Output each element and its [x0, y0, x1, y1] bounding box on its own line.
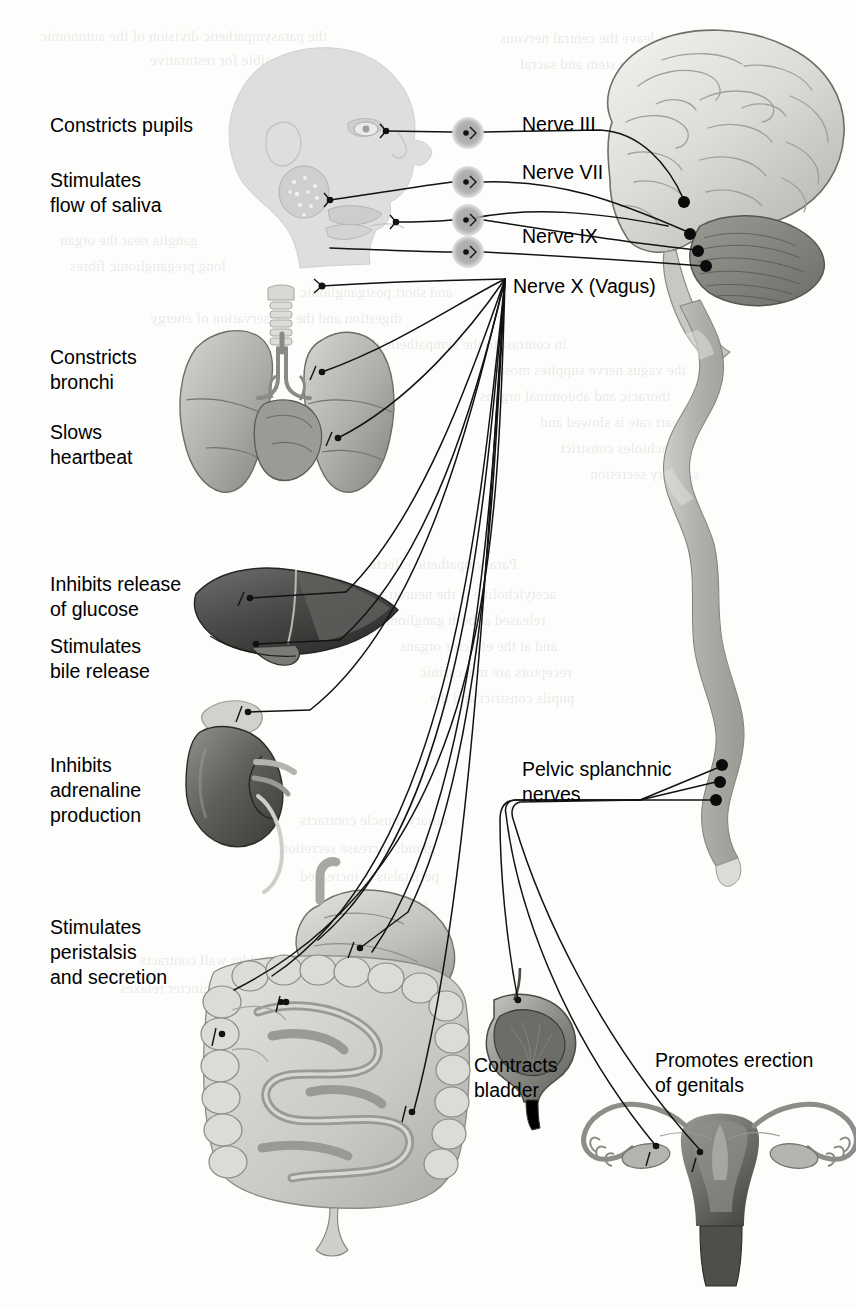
- diagram-page: the parasympathetic division of the auto…: [0, 0, 856, 1309]
- head-profile: [229, 48, 431, 268]
- label-nerve-iii: Nerve III: [522, 112, 596, 137]
- label-inhibits-adrenaline: Inhibits adrenaline production: [50, 753, 141, 828]
- label-constricts-bronchi: Constricts bronchi: [50, 345, 137, 395]
- brain: [608, 30, 844, 364]
- label-slows-heartbeat: Slows heartbeat: [50, 420, 132, 470]
- label-promotes-erection: Promotes erection of genitals: [655, 1048, 813, 1098]
- label-nerve-vii: Nerve VII: [522, 160, 603, 185]
- kidney-and-adrenal-gland: [186, 701, 294, 892]
- label-inhibits-glucose: Inhibits release of glucose: [50, 572, 181, 622]
- label-contracts-bladder: Contracts bladder: [474, 1053, 557, 1103]
- label-constricts-pupils: Constricts pupils: [50, 113, 193, 138]
- spinal-cord: [663, 300, 744, 886]
- label-stimulates-bile: Stimulates bile release: [50, 634, 150, 684]
- label-pelvic-splanchnic: Pelvic splanchnic nerves: [522, 757, 672, 807]
- lungs-and-heart: [180, 331, 394, 493]
- uterus-and-ovaries: [584, 1104, 856, 1286]
- bladder: [486, 968, 575, 1130]
- label-nerve-ix: Nerve IX: [522, 224, 598, 249]
- label-stimulates-peristalsis: Stimulates peristalsis and secretion: [50, 915, 167, 990]
- label-stimulates-saliva: Stimulates flow of saliva: [50, 168, 162, 218]
- liver: [194, 568, 398, 665]
- label-nerve-x: Nerve X (Vagus): [513, 274, 656, 299]
- intestines: [201, 955, 470, 1256]
